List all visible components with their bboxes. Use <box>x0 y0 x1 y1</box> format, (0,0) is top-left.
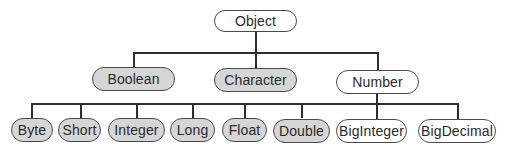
connector-to-character <box>255 52 257 69</box>
node-short: Short <box>58 118 101 142</box>
connector-to-integer <box>136 103 138 118</box>
connector-object-down <box>255 31 257 53</box>
node-boolean: Boolean <box>92 67 175 91</box>
connector-to-long <box>192 103 194 118</box>
connector-to-bigdecimal <box>457 103 459 119</box>
node-biginteger: BigInteger <box>336 119 407 143</box>
class-hierarchy-diagram: Object Boolean Character Number Byte Sho… <box>0 0 505 153</box>
node-bigdecimal: BigDecimal <box>418 119 496 143</box>
node-byte: Byte <box>11 118 53 142</box>
connector-to-short <box>80 103 82 118</box>
node-number: Number <box>336 70 419 94</box>
node-double: Double <box>273 119 330 143</box>
connector-to-boolean <box>133 52 135 68</box>
connector-to-byte <box>31 103 33 118</box>
node-character: Character <box>214 68 297 92</box>
node-long: Long <box>170 118 215 142</box>
node-integer: Integer <box>108 118 165 142</box>
connector-to-float <box>244 103 246 118</box>
connector-to-double <box>301 103 303 118</box>
node-float: Float <box>222 118 267 142</box>
connector-to-number <box>377 52 379 71</box>
node-object: Object <box>214 10 297 32</box>
connector-to-biginteger <box>376 103 378 119</box>
